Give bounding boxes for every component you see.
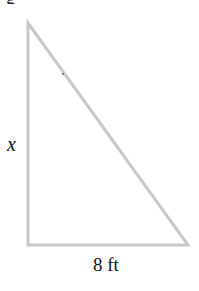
- right-triangle: [0, 0, 199, 291]
- hypotenuse-speck: [62, 73, 64, 75]
- triangle-shape: [28, 23, 188, 245]
- base-side-label: 8 ft: [93, 254, 119, 276]
- vertical-side-label: x: [7, 133, 16, 156]
